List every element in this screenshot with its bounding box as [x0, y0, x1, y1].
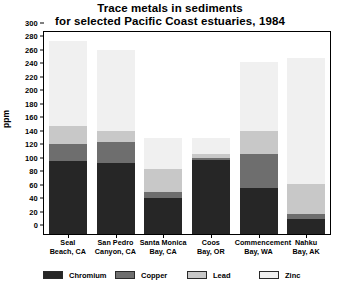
- y-axis-tick-mark: [40, 117, 44, 118]
- x-axis-label: SealBeach, CA: [44, 238, 92, 256]
- plot-inner: 0204060801001201401601802002202402602803…: [44, 32, 330, 234]
- legend-item-copper[interactable]: Copper: [115, 271, 187, 280]
- y-axis-tick: 20: [18, 207, 44, 216]
- legend-item-chromium[interactable]: Chromium: [43, 271, 115, 280]
- y-axis-tick: 220: [18, 72, 44, 81]
- y-axis-tick-label: 80: [18, 167, 40, 176]
- bar-segment-copper[interactable]: [49, 144, 87, 161]
- bar-segment-zinc[interactable]: [97, 50, 135, 131]
- y-axis-tick: 100: [18, 153, 44, 162]
- y-axis-tick-mark: [40, 211, 44, 212]
- x-axis-label: NahkuBay, AK: [282, 238, 330, 256]
- bar-segment-chromium[interactable]: [144, 198, 182, 234]
- y-axis-tick-label: 200: [18, 86, 40, 95]
- y-axis-tick-mark: [40, 130, 44, 131]
- y-axis-tick-mark: [40, 171, 44, 172]
- chart-legend: ChromiumCopperLeadZinc: [43, 268, 331, 282]
- bar-stack[interactable]: [49, 41, 87, 234]
- legend-swatch-copper: [115, 271, 135, 279]
- x-axis-label-line: Canyon, CA: [92, 247, 140, 256]
- legend-item-lead[interactable]: Lead: [187, 271, 259, 280]
- x-axis-label: San PedroCanyon, CA: [92, 238, 140, 256]
- y-axis-tick-label: 240: [18, 59, 40, 68]
- bar-segment-zinc[interactable]: [49, 41, 87, 126]
- bar-segment-zinc[interactable]: [240, 62, 278, 131]
- x-axis-label-line: Seal: [44, 238, 92, 247]
- y-axis-tick: 200: [18, 86, 44, 95]
- x-axis-label-line: Santa Monica: [139, 238, 187, 247]
- y-axis-tick: 160: [18, 113, 44, 122]
- legend-swatch-lead: [187, 271, 207, 279]
- x-axis-label-line: Commencement: [235, 238, 283, 247]
- y-axis-tick-label: 0: [18, 221, 40, 230]
- x-axis-label-line: San Pedro: [92, 238, 140, 247]
- y-axis-tick-mark: [40, 36, 44, 37]
- y-axis-tick-label: 300: [18, 19, 40, 28]
- legend-label: Copper: [141, 271, 167, 280]
- y-axis-tick-mark: [40, 184, 44, 185]
- bar-segment-zinc[interactable]: [144, 138, 182, 170]
- x-axis-label-line: Bay, AK: [282, 247, 330, 256]
- bar-stack[interactable]: [287, 58, 325, 234]
- x-axis-label-line: Beach, CA: [44, 247, 92, 256]
- bar-segment-lead[interactable]: [287, 184, 325, 214]
- bar-segment-lead[interactable]: [97, 131, 135, 142]
- bar-stack[interactable]: [144, 138, 182, 234]
- y-axis-tick-label: 180: [18, 99, 40, 108]
- bar-stack[interactable]: [97, 50, 135, 234]
- bar-segment-chromium[interactable]: [97, 163, 135, 234]
- y-axis-tick: 240: [18, 59, 44, 68]
- chart-title-line-1: Trace metals in sediments: [0, 2, 340, 15]
- y-axis-tick: 120: [18, 140, 44, 149]
- chart-figure: Trace metals in sediments for selected P…: [0, 0, 340, 292]
- y-axis-tick-mark: [40, 23, 44, 24]
- y-axis-tick-mark: [40, 225, 44, 226]
- legend-swatch-chromium: [43, 271, 63, 279]
- y-axis-tick: 300: [18, 19, 44, 28]
- bar-segment-copper[interactable]: [287, 214, 325, 219]
- x-axis-label-line: Bay, WA: [235, 247, 283, 256]
- y-axis-tick: 60: [18, 180, 44, 189]
- bar-segment-chromium[interactable]: [287, 219, 325, 234]
- bar-segment-copper[interactable]: [97, 142, 135, 164]
- bar-segment-lead[interactable]: [240, 131, 278, 154]
- y-axis-tick: 0: [18, 221, 44, 230]
- y-axis-tick-mark: [40, 198, 44, 199]
- y-axis-label: ppm: [1, 110, 11, 128]
- bar-stack[interactable]: [192, 138, 230, 234]
- x-axis-label: CommencementBay, WA: [235, 238, 283, 256]
- x-axis-label-line: Bay, OR: [187, 247, 235, 256]
- bar-segment-lead[interactable]: [192, 154, 230, 158]
- x-axis-label: CoosBay, OR: [187, 238, 235, 256]
- y-axis-tick-label: 280: [18, 32, 40, 41]
- y-axis-tick-label: 140: [18, 126, 40, 135]
- bar-segment-copper[interactable]: [144, 192, 182, 199]
- y-axis-tick-label: 20: [18, 207, 40, 216]
- legend-item-zinc[interactable]: Zinc: [259, 271, 331, 280]
- y-axis-tick-label: 260: [18, 45, 40, 54]
- bar-segment-copper[interactable]: [192, 158, 230, 160]
- chart-title: Trace metals in sediments for selected P…: [0, 2, 340, 28]
- legend-swatch-zinc: [259, 271, 279, 279]
- bar-segment-chromium[interactable]: [192, 160, 230, 234]
- y-axis-tick: 180: [18, 99, 44, 108]
- x-axis-label-line: Coos: [187, 238, 235, 247]
- bar-segment-zinc[interactable]: [287, 58, 325, 185]
- bar-segment-copper[interactable]: [240, 154, 278, 188]
- y-axis-tick: 80: [18, 167, 44, 176]
- legend-label: Zinc: [285, 271, 300, 280]
- chart-title-line-2: for selected Pacific Coast estuaries, 19…: [0, 15, 340, 28]
- y-axis-tick-mark: [40, 76, 44, 77]
- bar-stack[interactable]: [240, 62, 278, 234]
- y-axis-tick: 280: [18, 32, 44, 41]
- bar-segment-chromium[interactable]: [240, 188, 278, 234]
- y-axis-tick: 140: [18, 126, 44, 135]
- y-axis-tick-mark: [40, 103, 44, 104]
- y-axis-tick-mark: [40, 157, 44, 158]
- bar-segment-lead[interactable]: [49, 126, 87, 144]
- bar-segment-zinc[interactable]: [192, 138, 230, 154]
- y-axis-tick-label: 220: [18, 72, 40, 81]
- bar-segment-lead[interactable]: [144, 169, 182, 191]
- y-axis-tick-label: 120: [18, 140, 40, 149]
- bar-segment-chromium[interactable]: [49, 161, 87, 234]
